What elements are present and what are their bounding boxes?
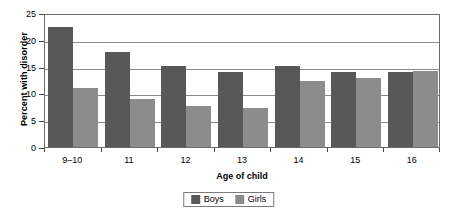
- bar-girls-14: [300, 81, 325, 147]
- x-tick-mark: [157, 148, 158, 152]
- x-tick-mark: [327, 148, 328, 152]
- y-tick-label: 0: [12, 144, 36, 153]
- plot-area: [44, 14, 440, 148]
- bar-group: [158, 15, 215, 147]
- x-tick-label: 16: [382, 155, 442, 165]
- legend-label: Girls: [248, 195, 267, 204]
- x-tick-label: 14: [269, 155, 329, 165]
- y-tick-label: 25: [12, 10, 36, 19]
- bar-girls-16: [413, 71, 438, 147]
- y-tick-label: 15: [12, 64, 36, 73]
- bar-group: [384, 15, 441, 147]
- bar-girls-9–10: [73, 88, 98, 147]
- bar-girls-12: [186, 106, 211, 147]
- x-axis-title: Age of child: [44, 171, 440, 181]
- bar-group: [328, 15, 385, 147]
- legend-label: Boys: [204, 195, 224, 204]
- x-tick-label: 12: [155, 155, 215, 165]
- bar-group: [215, 15, 272, 147]
- x-tick-mark: [214, 148, 215, 152]
- bar-boys-13: [218, 72, 243, 147]
- bar-group: [102, 15, 159, 147]
- x-tick-label: 13: [212, 155, 272, 165]
- legend: BoysGirls: [183, 192, 275, 207]
- y-tick-label: 10: [12, 90, 36, 99]
- legend-entry-boys: Boys: [191, 195, 224, 204]
- y-tick-label: 20: [12, 37, 36, 46]
- bar-girls-13: [243, 108, 268, 147]
- bar-girls-15: [356, 78, 381, 147]
- x-tick-mark: [383, 148, 384, 152]
- y-axis-title: Percent with disorder: [19, 9, 29, 149]
- bar-boys-11: [105, 52, 130, 147]
- x-tick-label: 11: [99, 155, 159, 165]
- bar-chart-figure: Percent with disorder 0510152025 9–10111…: [0, 0, 457, 222]
- bars-layer: [45, 15, 439, 147]
- x-tick-mark: [439, 148, 440, 152]
- x-tick-mark: [270, 148, 271, 152]
- legend-swatch-icon: [235, 195, 244, 204]
- bar-group: [45, 15, 102, 147]
- y-tick-label: 5: [12, 117, 36, 126]
- x-tick-label: 9–10: [42, 155, 102, 165]
- legend-swatch-icon: [191, 195, 200, 204]
- bar-boys-9–10: [48, 27, 73, 147]
- bar-boys-14: [275, 66, 300, 147]
- bar-boys-15: [331, 72, 356, 147]
- x-tick-label: 15: [325, 155, 385, 165]
- bar-girls-11: [130, 99, 155, 147]
- bar-group: [271, 15, 328, 147]
- bar-boys-16: [388, 72, 413, 147]
- bar-boys-12: [161, 66, 186, 147]
- legend-entry-girls: Girls: [235, 195, 267, 204]
- x-tick-mark: [44, 148, 45, 152]
- x-tick-mark: [101, 148, 102, 152]
